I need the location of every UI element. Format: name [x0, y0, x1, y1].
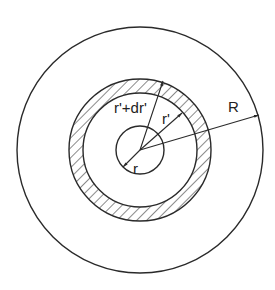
label-r-prime: r'	[162, 110, 170, 127]
label-r-prime-plus-dr-prime: r'+dr'	[114, 99, 147, 116]
concentric-shell-diagram: R r'+dr' r' r	[0, 0, 275, 290]
label-R: R	[228, 98, 239, 115]
label-r: r	[133, 160, 138, 177]
